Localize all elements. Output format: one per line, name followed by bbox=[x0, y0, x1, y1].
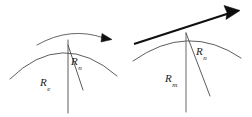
left-inner-radius-subscript: n bbox=[78, 64, 82, 72]
right-outer-radius-subscript: m bbox=[172, 81, 177, 89]
left-outer-arc bbox=[10, 53, 117, 79]
right-straight-arrow-shaft bbox=[134, 12, 233, 44]
right-outer-radius-symbol: R bbox=[165, 72, 172, 84]
right-diagram-group bbox=[133, 6, 241, 113]
right-inner-radius-symbol: R bbox=[196, 45, 203, 57]
left-arrow-head-icon bbox=[101, 34, 112, 43]
diagram-svg bbox=[0, 0, 252, 117]
left-inner-radius-symbol: R bbox=[71, 55, 78, 67]
left-inner-radius-label: Rn bbox=[71, 56, 81, 70]
right-inner-radius-subscript: n bbox=[203, 54, 207, 62]
left-outer-radius-subscript: e bbox=[47, 85, 50, 93]
figure-canvas: Re Rn Rm Rn bbox=[0, 0, 252, 117]
left-curved-arrow-shaft bbox=[37, 33, 104, 45]
right-outer-radius-label: Rm bbox=[165, 73, 177, 87]
right-arrow-head-icon bbox=[224, 6, 240, 20]
left-outer-radius-label: Re bbox=[40, 77, 50, 91]
left-diagram-group bbox=[10, 33, 117, 113]
right-inner-radius-label: Rn bbox=[196, 46, 206, 60]
right-outer-arc bbox=[133, 41, 241, 61]
left-outer-radius-symbol: R bbox=[40, 76, 47, 88]
